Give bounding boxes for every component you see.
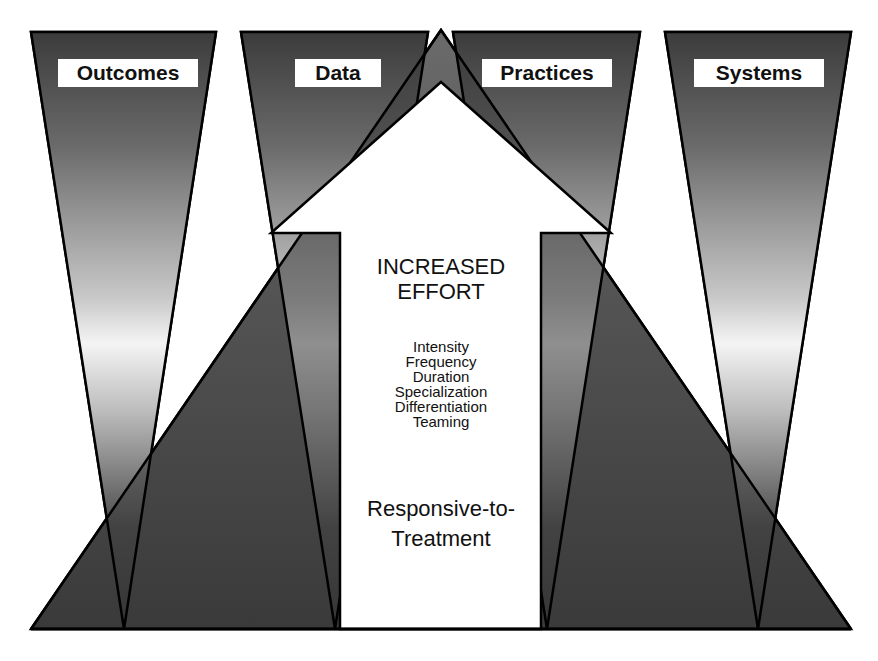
- column-label-data: Data: [295, 59, 381, 87]
- factor-item: Specialization: [340, 384, 542, 399]
- arrow-footer-line2: Treatment: [340, 524, 542, 554]
- column-label-practices: Practices: [482, 59, 612, 87]
- factor-item: Frequency: [340, 354, 542, 369]
- factor-item: Intensity: [340, 339, 542, 354]
- arrow-title-line1: INCREASED: [340, 254, 542, 279]
- diagram-canvas: [0, 0, 878, 661]
- factor-item: Duration: [340, 369, 542, 384]
- arrow-footer-line1: Responsive-to-: [340, 494, 542, 524]
- column-label-systems: Systems: [694, 59, 824, 87]
- factor-item: Differentiation: [340, 399, 542, 414]
- effort-factors-list: Intensity Frequency Duration Specializat…: [340, 339, 542, 429]
- arrow-title: INCREASED EFFORT: [340, 254, 542, 304]
- factor-item: Teaming: [340, 414, 542, 429]
- arrow-title-line2: EFFORT: [340, 279, 542, 304]
- arrow-footer: Responsive-to- Treatment: [340, 494, 542, 554]
- column-label-outcomes: Outcomes: [58, 59, 198, 87]
